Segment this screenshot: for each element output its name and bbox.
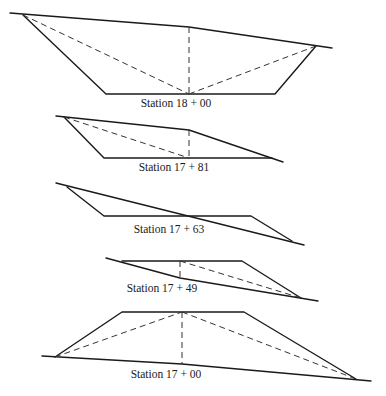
dashed-diagonal-right <box>180 261 301 298</box>
ground-line <box>106 258 318 301</box>
roadway-template <box>55 312 356 379</box>
station-label: Station 17 + 49 <box>127 282 198 294</box>
station-label: Station 18 + 00 <box>141 97 212 109</box>
section-station-18-00: Station 18 + 00 <box>10 13 332 109</box>
dashed-diagonal-left <box>55 312 182 357</box>
station-label: Station 17 + 81 <box>139 161 210 173</box>
section-station-17-00: Station 17 + 00 <box>42 312 371 381</box>
dashed-diagonal-right <box>182 312 356 379</box>
dashed-diagonal-left <box>23 15 189 94</box>
ground-line <box>56 116 283 162</box>
dashed-diagonal-right <box>189 46 316 94</box>
ground-line <box>10 13 332 48</box>
section-station-17-63: Station 17 + 63 <box>56 183 304 245</box>
roadway-template <box>23 15 316 94</box>
section-station-17-49: Station 17 + 49 <box>106 258 318 301</box>
roadway-template <box>64 117 272 158</box>
station-label: Station 17 + 63 <box>134 223 205 235</box>
station-label: Station 17 + 00 <box>131 368 202 380</box>
ground-line <box>56 183 304 245</box>
ground-line <box>42 356 371 381</box>
cross-section-diagram: Station 18 + 00 Station 17 + 81 Station … <box>0 0 386 396</box>
section-station-17-81: Station 17 + 81 <box>56 116 283 173</box>
